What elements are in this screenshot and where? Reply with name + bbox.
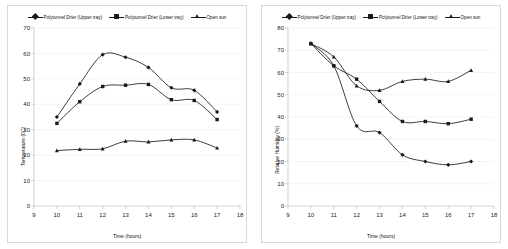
legend-label-lower-tray: Polytunnel Drier (Lower tray) (125, 14, 183, 21)
y-tick-label: 10 (23, 178, 30, 184)
humidity-plot-area: 010203040506070809101112131415161718 (262, 22, 500, 234)
diamond-icon (282, 14, 297, 21)
temperature-panel: Polytunnel Drier (Upper tray) Polytunnel… (0, 0, 254, 249)
humidity-plot-svg: 010203040506070809101112131415161718 (262, 22, 502, 234)
x-tick-label: 16 (445, 212, 452, 218)
x-tick-label: 13 (376, 212, 383, 218)
square-marker-icon (424, 120, 427, 123)
x-tick-label: 10 (308, 212, 315, 218)
x-tick-label: 17 (214, 212, 221, 218)
series-line-2 (311, 44, 471, 124)
square-marker-icon (101, 85, 104, 88)
diamond-icon (28, 14, 43, 21)
y-tick-label: 70 (277, 47, 284, 53)
legend-label-lower-tray: Polytunnel Drier (Lower tray) (379, 14, 437, 21)
diamond-marker-icon (423, 159, 427, 163)
square-marker-icon (170, 98, 173, 101)
x-tick-label: 13 (122, 212, 129, 218)
y-tick-label: 70 (23, 25, 30, 31)
square-marker-icon (124, 84, 127, 87)
x-tick-label: 11 (331, 212, 338, 218)
square-icon (363, 14, 378, 21)
y-tick-label: 40 (277, 114, 284, 120)
x-tick-label: 9 (286, 212, 290, 218)
legend-label-upper-tray: Polytunnel Drier (Upper tray) (298, 14, 356, 21)
legend-label-upper-tray: Polytunnel Drier (Upper tray) (44, 14, 102, 21)
square-marker-icon (401, 120, 404, 123)
x-tick-label: 18 (237, 212, 244, 218)
temperature-plot-svg: 0102030405060709101112131415161718 (8, 22, 248, 234)
humidity-y-axis-title: Relative Humidity (%) (274, 126, 280, 174)
humidity-x-axis-title: Time (hours) (262, 233, 500, 239)
square-marker-icon (332, 64, 335, 67)
temperature-plot-area: 0102030405060709101112131415161718 (8, 22, 246, 234)
diamond-marker-icon (123, 55, 127, 59)
legend-item-open-sun: Open sun (191, 14, 227, 21)
temperature-y-axis-title: Temperature (0C) (20, 127, 26, 166)
series-line-1 (57, 53, 217, 117)
x-tick-label: 15 (422, 212, 429, 218)
humidity-panel: Polytunnel Drier (Upper tray) Polytunnel… (254, 0, 508, 249)
x-tick-label: 18 (491, 212, 498, 218)
triangle-icon (191, 14, 206, 21)
legend-label-open-sun: Open sun (207, 14, 227, 21)
x-tick-label: 14 (399, 212, 406, 218)
square-marker-icon (447, 122, 450, 125)
diamond-marker-icon (469, 159, 473, 163)
square-icon (109, 14, 124, 21)
temperature-panel-frame: Polytunnel Drier (Upper tray) Polytunnel… (7, 5, 247, 243)
x-tick-label: 17 (468, 212, 475, 218)
y-tick-label: 50 (277, 92, 284, 98)
y-tick-label: 10 (277, 181, 284, 187)
legend-item-open-sun: Open sun (445, 14, 481, 21)
square-marker-icon (469, 118, 472, 121)
x-tick-label: 10 (54, 212, 61, 218)
square-marker-icon (78, 100, 81, 103)
x-tick-label: 16 (191, 212, 198, 218)
legend-item-lower-tray: Polytunnel Drier (Lower tray) (363, 14, 437, 21)
legend-item-upper-tray: Polytunnel Drier (Upper tray) (282, 14, 356, 21)
legend-item-lower-tray: Polytunnel Drier (Lower tray) (109, 14, 183, 21)
triangle-icon (445, 14, 460, 21)
y-tick-label: 0 (27, 203, 31, 209)
square-marker-icon (215, 118, 218, 121)
y-tick-label: 80 (277, 25, 284, 31)
legend-item-upper-tray: Polytunnel Drier (Upper tray) (28, 14, 102, 21)
humidity-panel-frame: Polytunnel Drier (Upper tray) Polytunnel… (261, 5, 501, 243)
temperature-x-axis-title: Time (hours) (8, 233, 246, 239)
two-panel-line-chart-figure: Polytunnel Drier (Upper tray) Polytunnel… (0, 0, 508, 249)
square-marker-icon (147, 83, 150, 86)
series-line-1 (311, 44, 471, 165)
square-marker-icon (193, 99, 196, 102)
triangle-marker-icon (469, 68, 473, 72)
square-marker-icon (378, 100, 381, 103)
y-tick-label: 60 (23, 51, 30, 57)
x-tick-label: 12 (353, 212, 360, 218)
diamond-marker-icon (192, 88, 196, 92)
x-tick-label: 15 (168, 212, 175, 218)
square-marker-icon (355, 77, 358, 80)
x-tick-label: 12 (99, 212, 106, 218)
diamond-marker-icon (446, 163, 450, 167)
diamond-marker-icon (169, 86, 173, 90)
legend-label-open-sun: Open sun (461, 14, 481, 21)
x-tick-label: 11 (77, 212, 84, 218)
y-tick-label: 0 (281, 203, 285, 209)
square-marker-icon (55, 122, 58, 125)
x-tick-label: 14 (145, 212, 152, 218)
y-tick-label: 50 (23, 76, 30, 82)
x-tick-label: 9 (32, 212, 36, 218)
y-tick-label: 40 (23, 101, 30, 107)
y-tick-label: 60 (277, 70, 284, 76)
